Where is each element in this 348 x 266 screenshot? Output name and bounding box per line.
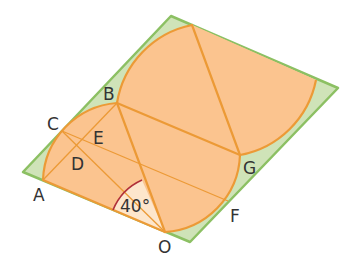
geometry-diagram: A B C D E F G O 40° xyxy=(0,0,348,266)
angle-label: 40° xyxy=(120,196,150,216)
label-C: C xyxy=(47,114,59,134)
label-F: F xyxy=(230,206,240,226)
label-A: A xyxy=(33,185,45,205)
label-O: O xyxy=(158,237,171,257)
label-B: B xyxy=(103,84,115,104)
label-E: E xyxy=(93,128,104,148)
label-G: G xyxy=(243,158,256,178)
label-D: D xyxy=(71,154,84,174)
